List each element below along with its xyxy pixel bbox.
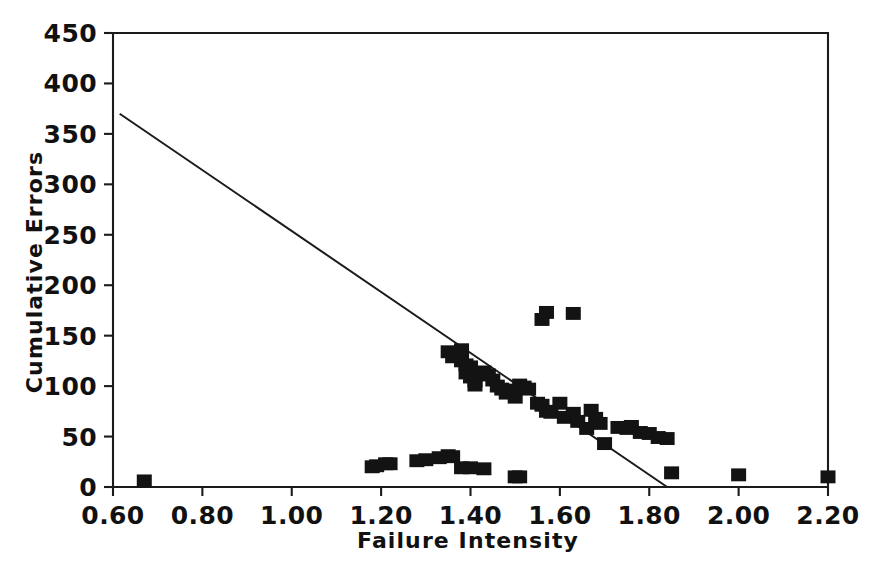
x-axis-title: Failure Intensity xyxy=(357,528,579,553)
y-tick-label: 400 xyxy=(44,69,97,98)
x-tick-label: 2.20 xyxy=(796,501,859,530)
x-tick-label: 1.80 xyxy=(618,501,681,530)
axis-ticks xyxy=(104,33,828,496)
x-tick-label: 2.00 xyxy=(707,501,770,530)
data-point-marker xyxy=(821,470,836,483)
x-tick-label: 1.60 xyxy=(528,501,591,530)
y-tick-label: 0 xyxy=(79,473,97,502)
data-point-marker xyxy=(476,462,491,475)
y-tick-label: 150 xyxy=(44,322,97,351)
data-point-marker xyxy=(521,383,536,396)
data-point-marker xyxy=(137,474,152,487)
y-tick-label: 200 xyxy=(44,271,97,300)
data-point-marker xyxy=(566,307,581,320)
data-point-marker xyxy=(454,343,469,356)
scatter-plot: 0501001502002503003504004500.600.801.001… xyxy=(0,0,876,575)
chart-figure: 0501001502002503003504004500.600.801.001… xyxy=(0,0,876,575)
data-point-marker xyxy=(731,468,746,481)
x-tick-label: 0.80 xyxy=(171,501,234,530)
x-tick-label: 1.20 xyxy=(349,501,412,530)
data-point-marker xyxy=(660,432,675,445)
data-point-marker xyxy=(445,450,460,463)
plot-frame xyxy=(113,33,828,487)
plot-axes xyxy=(113,33,828,487)
data-point-marker xyxy=(463,461,478,474)
data-point-marker xyxy=(664,466,679,479)
data-point-marker xyxy=(418,453,433,466)
y-tick-label: 250 xyxy=(44,221,97,250)
y-tick-label: 50 xyxy=(61,423,97,452)
y-tick-label: 450 xyxy=(44,19,97,48)
data-point-marker xyxy=(593,417,608,430)
x-tick-label: 0.60 xyxy=(81,501,144,530)
data-point-marker xyxy=(597,437,612,450)
y-tick-label: 350 xyxy=(44,120,97,149)
data-point-marker xyxy=(512,470,527,483)
x-tick-label: 1.40 xyxy=(439,501,502,530)
data-point-marker xyxy=(467,379,482,392)
data-point-marker xyxy=(539,306,554,319)
x-tick-label: 1.00 xyxy=(260,501,323,530)
y-tick-label: 100 xyxy=(44,372,97,401)
data-point-marker xyxy=(552,397,567,410)
data-point-marker xyxy=(383,457,398,470)
y-axis-title: Cumulative Errors xyxy=(22,151,47,393)
y-tick-label: 300 xyxy=(44,170,97,199)
scatter-markers xyxy=(137,306,836,487)
